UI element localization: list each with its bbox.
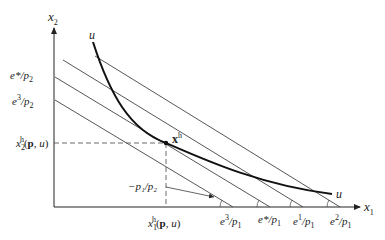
y-intercept-estar: e*/p2 [10,70,33,84]
x-demand-label: x1h(p, u) [148,216,180,232]
budget-line-e1 [63,60,303,207]
y-axis-label: x2 [48,10,58,27]
x-intercept-e1: e1/p1 [293,214,314,230]
curve-label-bottom: u [336,188,342,200]
point-label: xh [172,132,182,145]
x-intercept-e3: e3/p1 [220,214,241,230]
x-intercept-e2: e2/p1 [330,214,351,230]
angle-arc [257,200,259,207]
diagram-canvas [0,0,385,240]
y-intercept-e3: e3/p2 [12,94,33,110]
x-intercept-estar: e*/p1 [258,214,281,228]
angle-arc [327,200,329,207]
slope-pointer-arrow [166,187,214,197]
curve-label-top: u [89,29,95,41]
x-axis-label: x1 [364,200,374,217]
slope-label: −p₁/p₂ [128,181,157,192]
hicksian-point [164,141,168,145]
indifference-curve-u [93,42,332,194]
angle-arc [220,200,222,207]
angle-arc [290,200,292,207]
y-demand-label: x2h(p, u) [16,136,48,152]
